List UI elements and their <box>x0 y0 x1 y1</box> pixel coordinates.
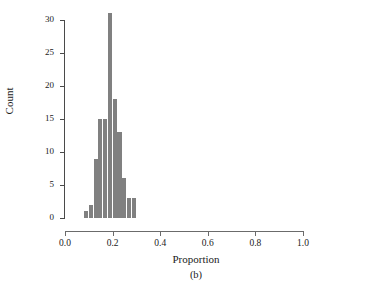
x-tick-label: 1.0 <box>283 238 323 249</box>
y-tick-mark <box>60 86 64 87</box>
x-tick-label: 0.6 <box>188 238 228 249</box>
histogram-bar <box>84 211 88 218</box>
histogram-bar <box>98 119 102 218</box>
x-tick-label: 0.0 <box>45 238 85 249</box>
x-tick-mark <box>208 231 209 236</box>
x-axis-title: Proportion <box>0 253 392 265</box>
panel-label: (b) <box>0 269 392 280</box>
y-tick-label: 0 <box>14 213 54 222</box>
histogram-bar <box>89 205 93 218</box>
y-tick-label: 5 <box>14 180 54 189</box>
histogram-bar <box>113 99 117 218</box>
histogram-bar <box>94 159 98 218</box>
y-tick-mark <box>60 53 64 54</box>
x-tick-label: 0.4 <box>140 238 180 249</box>
x-tick-mark <box>255 231 256 236</box>
y-tick-label: 30 <box>14 15 54 24</box>
y-tick-label: 10 <box>14 147 54 156</box>
y-tick-mark <box>60 185 64 186</box>
y-tick-mark <box>60 218 64 219</box>
y-tick-label: 15 <box>14 114 54 123</box>
y-axis-title: Count <box>3 66 15 136</box>
x-tick-label: 0.8 <box>235 238 275 249</box>
x-axis-line <box>65 231 304 232</box>
histogram-bar <box>117 132 121 218</box>
y-tick-label: 20 <box>14 81 54 90</box>
x-tick-mark <box>113 231 114 236</box>
x-tick-mark <box>65 231 66 236</box>
y-tick-mark <box>60 20 64 21</box>
histogram-figure: 051015202530 Count 0.00.20.40.60.81.0 Pr… <box>0 0 392 294</box>
y-tick-mark <box>60 119 64 120</box>
histogram-bar <box>127 198 131 218</box>
histogram-bar <box>132 198 136 218</box>
histogram-bar <box>103 119 107 218</box>
y-tick-mark <box>60 152 64 153</box>
histogram-bar <box>122 178 126 218</box>
x-tick-label: 0.2 <box>93 238 133 249</box>
x-tick-mark <box>160 231 161 236</box>
plot-area <box>65 20 303 218</box>
x-tick-mark <box>303 231 304 236</box>
y-tick-label: 25 <box>14 48 54 57</box>
histogram-bar <box>108 13 112 218</box>
